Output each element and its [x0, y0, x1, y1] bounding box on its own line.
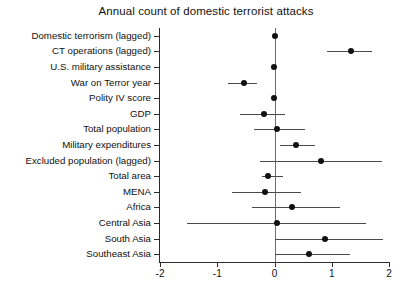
y-axis-tick: [154, 98, 159, 99]
y-axis-category-label: Polity IV score: [89, 93, 151, 103]
coefficient-point: [261, 111, 267, 117]
x-axis-tick-label: -2: [156, 269, 165, 279]
y-axis-category-label: U.S. military assistance: [50, 62, 151, 72]
y-axis-category-label: MENA: [123, 187, 151, 197]
x-axis-tick: [332, 262, 333, 267]
coefficient-point: [272, 33, 278, 39]
x-axis-tick-label: 2: [386, 269, 392, 279]
y-axis-tick: [154, 192, 159, 193]
plot-area: [160, 28, 389, 262]
y-axis-tick: [154, 36, 159, 37]
coefficient-plot: Annual count of domestic terrorist attac…: [0, 0, 412, 295]
y-axis-category-label: Central Asia: [99, 218, 151, 228]
y-axis-category-label: Military expenditures: [62, 140, 151, 150]
coefficient-point: [274, 126, 280, 132]
confidence-interval-bar: [252, 207, 340, 208]
y-axis-tick: [154, 51, 159, 52]
coefficient-point: [265, 173, 271, 179]
x-axis-tick: [217, 262, 218, 267]
y-axis-category-label: Southeast Asia: [86, 249, 151, 259]
y-axis-tick: [154, 83, 159, 84]
confidence-interval-bar: [275, 254, 351, 255]
y-axis-category-label: Total population: [83, 125, 151, 135]
y-axis-category-label: GDP: [130, 109, 151, 119]
y-axis-tick: [154, 207, 159, 208]
y-axis-category-label: Total area: [108, 171, 151, 181]
y-axis-tick: [154, 145, 159, 146]
x-axis-tick: [275, 262, 276, 267]
coefficient-point: [348, 48, 354, 54]
x-axis-tick: [389, 262, 390, 267]
y-axis-tick: [154, 161, 159, 162]
y-axis-category-label: Africa: [126, 203, 151, 213]
chart-title: Annual count of domestic terrorist attac…: [0, 5, 412, 17]
coefficient-point: [306, 251, 312, 257]
coefficient-point: [318, 158, 324, 164]
y-axis-tick: [154, 239, 159, 240]
coefficient-point: [271, 95, 277, 101]
x-axis-tick: [160, 262, 161, 267]
coefficient-point: [322, 236, 328, 242]
y-axis-tick: [154, 254, 159, 255]
x-axis-tick-label: 0: [272, 269, 278, 279]
x-axis-tick-label: -1: [213, 269, 222, 279]
y-axis-category-label: Domestic terrorism (lagged): [31, 31, 151, 41]
x-axis-tick-label: 1: [329, 269, 335, 279]
coefficient-point: [293, 142, 299, 148]
coefficient-point: [241, 80, 247, 86]
coefficient-point: [271, 64, 277, 70]
y-axis-tick: [154, 176, 159, 177]
y-axis-category-label: South Asia: [105, 234, 151, 244]
y-axis-category-label: Excluded population (lagged): [26, 156, 152, 166]
y-axis-category-label: War on Terror year: [71, 78, 151, 88]
coefficient-point: [289, 204, 295, 210]
y-axis-tick: [154, 114, 159, 115]
coefficient-point: [274, 220, 280, 226]
y-axis-tick: [154, 223, 159, 224]
confidence-interval-bar: [275, 239, 383, 240]
coefficient-point: [262, 189, 268, 195]
y-axis-tick: [154, 129, 159, 130]
y-axis-tick: [154, 67, 159, 68]
y-axis-category-label: CT operations (lagged): [52, 47, 151, 57]
